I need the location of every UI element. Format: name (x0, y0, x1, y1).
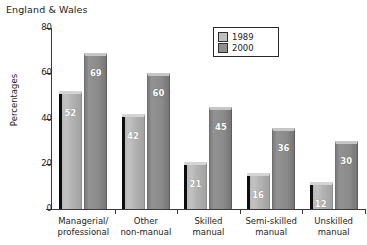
x-category-label-line2: non-manual (115, 227, 178, 238)
bar-value-label: 21 (184, 179, 206, 189)
plot-area: 52694260214516361230 (52, 28, 365, 209)
x-category-label: Unskilledmanual (302, 216, 365, 238)
bar-2000-4: 36 (272, 128, 295, 209)
x-category-label-line1: Skilled (177, 216, 240, 227)
x-axis-line (51, 209, 365, 210)
bar-chart: England & Wales Percentages 020406080 52… (0, 0, 367, 245)
bar-1989-4: 16 (247, 173, 270, 209)
x-category-label-line1: Semi-skilled (240, 216, 303, 227)
bar-group: 4260 (115, 28, 178, 209)
x-tick (240, 209, 241, 214)
x-category-label-line2: manual (302, 227, 365, 238)
bar-2000-1: 69 (84, 53, 107, 209)
y-tick-label: 60 (30, 68, 52, 77)
bar-value-label: 69 (85, 68, 106, 78)
y-tick-label-wrap: 80 (0, 23, 52, 33)
bar-2000-3: 45 (209, 107, 232, 209)
bar-1989-1: 52 (59, 91, 82, 209)
legend-swatch-2000-icon (218, 43, 228, 53)
chart-title: England & Wales (6, 4, 88, 15)
x-category-label-line2: manual (240, 227, 303, 238)
bar-value-label: 36 (273, 143, 294, 153)
x-category-label: Managerial/professional (52, 216, 115, 238)
bar-value-label: 52 (59, 108, 81, 118)
bar-value-label: 16 (247, 190, 269, 200)
x-category-label-line1: Managerial/ (52, 216, 115, 227)
y-tick-label-wrap: 0 (0, 204, 52, 214)
y-tick-label-wrap: 60 (0, 68, 52, 78)
y-tick-label: 20 (30, 159, 52, 168)
y-tick-label: 0 (30, 204, 52, 213)
bar-1989-2: 42 (122, 114, 145, 209)
x-category-label-line2: professional (52, 227, 115, 238)
chart-legend: 1989 2000 (213, 27, 279, 57)
x-category-label-line2: manual (177, 227, 240, 238)
legend-item-1989: 1989 (218, 31, 273, 42)
x-category-label: Othernon-manual (115, 216, 178, 238)
bar-group: 5269 (52, 28, 115, 209)
x-tick (302, 209, 303, 214)
bar-2000-2: 60 (147, 73, 170, 209)
y-tick-label-wrap: 20 (0, 159, 52, 169)
legend-label-2000: 2000 (232, 43, 254, 53)
legend-item-2000: 2000 (218, 42, 273, 53)
x-tick (365, 209, 366, 214)
bar-value-label: 12 (310, 199, 332, 209)
x-category-label-line1: Unskilled (302, 216, 365, 227)
x-tick (115, 209, 116, 214)
x-category-label: Skilledmanual (177, 216, 240, 238)
x-category-label: Semi-skilledmanual (240, 216, 303, 238)
bar-value-label: 42 (122, 131, 144, 141)
bar-value-label: 45 (210, 122, 231, 132)
y-tick-label-wrap: 40 (0, 114, 52, 124)
legend-label-1989: 1989 (232, 32, 254, 42)
y-tick-label: 40 (30, 114, 52, 123)
bar-1989-5: 12 (310, 182, 333, 209)
x-tick (177, 209, 178, 214)
bar-group: 1230 (302, 28, 365, 209)
bar-value-label: 60 (148, 88, 169, 98)
legend-swatch-1989-icon (218, 32, 228, 42)
bar-value-label: 30 (336, 156, 357, 166)
bar-1989-3: 21 (184, 162, 207, 210)
y-tick-label: 80 (30, 23, 52, 32)
bar-2000-5: 30 (335, 141, 358, 209)
x-category-label-line1: Other (115, 216, 178, 227)
